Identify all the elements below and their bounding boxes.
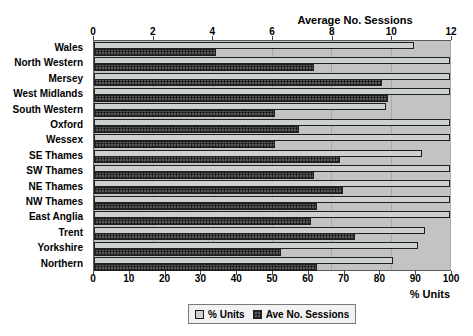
bottom-axis-tick-label: 40 [231,273,242,284]
legend-label: % Units [208,309,245,320]
category-label: Northern [0,256,83,271]
category-label: NW Thames [0,194,83,209]
ave-sessions-bar [94,172,314,179]
legend-swatch-icon [195,310,204,319]
bottom-axis-tick-label: 90 [410,273,421,284]
category-row [94,41,450,56]
category-row [94,195,450,210]
category-label: North Western [0,55,83,70]
bottom-axis-tick-label: 80 [374,273,385,284]
ave-sessions-bar [94,126,299,133]
bottom-axis-title: % Units [393,288,450,300]
plot-area [93,40,451,271]
ave-sessions-bar [94,79,382,86]
ave-sessions-bar [94,49,216,56]
bottom-axis-tick-label: 0 [90,273,96,284]
bottom-axis-tick-labels: 0102030405060708090100 [93,273,451,285]
bottom-axis-tick-label: 70 [338,273,349,284]
bottom-axis-tick-label: 30 [195,273,206,284]
ave-sessions-bar [94,203,317,210]
top-axis-tickmark [451,36,452,40]
ave-sessions-bar [94,233,355,240]
category-label: Wales [0,40,83,55]
category-row [94,87,450,102]
legend-swatch-icon [253,310,262,319]
category-row [94,226,450,241]
bottom-axis-tick-label: 60 [302,273,313,284]
category-row [94,241,450,256]
category-label: East Anglia [0,209,83,224]
category-row [94,149,450,164]
category-label: South Western [0,102,83,117]
category-row [94,257,450,272]
category-row [94,180,450,195]
legend-item: % Units [195,309,245,320]
category-label: Wessex [0,132,83,147]
category-axis-labels: WalesNorth WesternMerseyWest MidlandsSou… [0,40,88,271]
category-label: West Midlands [0,86,83,101]
bottom-axis-tick-label: 20 [159,273,170,284]
category-row [94,210,450,225]
bar-chart: Average No. Sessions 024681012 WalesNort… [0,0,473,336]
category-row [94,164,450,179]
legend: % UnitsAve No. Sessions [188,304,356,324]
ave-sessions-bar [94,110,275,117]
ave-sessions-bar [94,64,314,71]
category-row [94,56,450,71]
category-row [94,133,450,148]
ave-sessions-bar [94,249,281,256]
category-label: SE Thames [0,148,83,163]
category-row [94,118,450,133]
bottom-axis-tick-label: 100 [443,273,460,284]
legend-item: Ave No. Sessions [253,309,350,320]
category-label: Mersey [0,71,83,86]
ave-sessions-bar [94,95,388,102]
category-label: Trent [0,225,83,240]
bottom-axis-tick-label: 50 [266,273,277,284]
bottom-axis-tick-label: 10 [123,273,134,284]
ave-sessions-bar [94,141,275,148]
ave-sessions-bar [94,156,340,163]
top-axis-title: Average No. Sessions [250,14,460,26]
ave-sessions-bar [94,187,343,194]
category-row [94,72,450,87]
category-label: Oxford [0,117,83,132]
category-label: SW Thames [0,163,83,178]
ave-sessions-bar [94,218,311,225]
category-row [94,103,450,118]
category-label: NE Thames [0,179,83,194]
category-label: Yorkshire [0,240,83,255]
legend-label: Ave No. Sessions [266,309,350,320]
gridline [450,41,451,270]
